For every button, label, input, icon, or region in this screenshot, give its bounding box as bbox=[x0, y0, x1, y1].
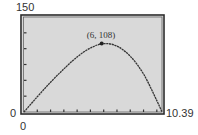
x-max-label: 10.39 bbox=[166, 108, 194, 119]
x-min-label: 0 bbox=[20, 121, 26, 132]
vertex-annotation: (6, 108) bbox=[87, 31, 116, 40]
y-min-label: 0 bbox=[10, 108, 16, 119]
y-max-label: 150 bbox=[16, 2, 34, 13]
vertex-marker bbox=[100, 42, 104, 46]
